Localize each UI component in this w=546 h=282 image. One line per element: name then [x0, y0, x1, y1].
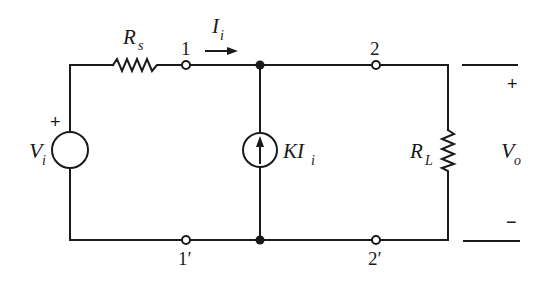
label-vo-plus: +	[507, 74, 518, 94]
svg-text:i: i	[220, 28, 224, 43]
label-terminal-2: 2	[370, 38, 380, 59]
svg-text:i: i	[42, 153, 46, 168]
label-vo-minus: −	[506, 212, 517, 232]
label-vi-plus: +	[50, 112, 61, 132]
source-resistor-rs	[113, 59, 182, 71]
svg-text:R: R	[409, 139, 423, 163]
svg-text:I: I	[211, 14, 220, 38]
svg-text:i: i	[311, 153, 315, 168]
label-vo: V o	[501, 138, 521, 168]
label-ii: I i	[211, 14, 224, 43]
arrow-right-icon	[205, 47, 238, 55]
svg-text:s: s	[138, 38, 144, 53]
label-rl: R L	[409, 139, 433, 168]
svg-text:R: R	[122, 25, 136, 49]
label-ki: KI i	[282, 139, 315, 168]
svg-text:o: o	[514, 153, 521, 168]
label-terminal-2-prime: 2′	[368, 248, 382, 269]
circuit-diagram: R s 1 2 1′ 2′ I i + V i KI i R L + V o −	[0, 0, 546, 282]
load-resistor-rl	[442, 130, 454, 240]
svg-text:L: L	[424, 153, 433, 168]
svg-text:KI: KI	[282, 139, 305, 163]
label-vi: V i	[29, 138, 46, 168]
label-terminal-1-prime: 1′	[178, 248, 192, 269]
terminal-2-prime	[372, 236, 380, 244]
terminal-1-prime	[182, 236, 190, 244]
wire-left-top	[70, 65, 113, 132]
label-rs: R s	[122, 25, 144, 53]
terminal-2	[372, 61, 380, 69]
wire-top-right	[380, 65, 448, 130]
voltage-source-vi	[52, 132, 88, 168]
terminal-1	[182, 61, 190, 69]
label-terminal-1: 1	[181, 38, 191, 59]
wire-left-bottom	[70, 168, 183, 240]
